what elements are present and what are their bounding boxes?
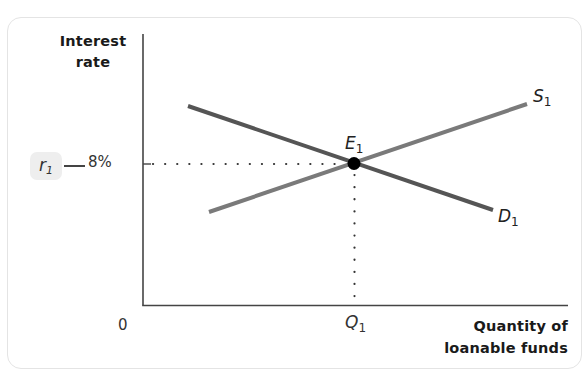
q1-symbol: Q	[345, 312, 358, 332]
origin-label: 0	[118, 316, 128, 334]
q1-label: Q1	[345, 312, 366, 332]
supply-curve-s1	[209, 104, 527, 212]
x-axis-title-line1: Quantity of	[444, 315, 568, 337]
s1-subscript: 1	[544, 95, 552, 109]
r1-symbol: r	[39, 155, 46, 175]
r1-label-box: r1	[30, 152, 62, 180]
r1-subscript: 1	[46, 164, 53, 177]
y-axis-title-line1: Interest	[40, 31, 146, 52]
d1-subscript: 1	[511, 215, 519, 229]
equilibrium-point-e1	[348, 157, 361, 170]
x-axis-title-line2: loanable funds	[444, 337, 568, 359]
y-axis-title-line2: rate	[40, 52, 146, 73]
d1-symbol: D	[498, 206, 511, 226]
d1-label: D1	[498, 206, 519, 226]
y-axis-title: Interest rate	[40, 31, 146, 73]
demand-curve-d1	[188, 106, 493, 210]
r1-connector-line	[64, 165, 85, 167]
x-axis-title: Quantity of loanable funds	[444, 315, 568, 359]
s1-symbol: S	[533, 86, 544, 106]
e1-symbol: E	[345, 133, 356, 153]
rate-value-label: 8%	[88, 153, 112, 171]
e1-label: E1	[345, 133, 363, 153]
s1-label: S1	[533, 86, 551, 106]
e1-subscript: 1	[356, 142, 364, 156]
q1-subscript: 1	[358, 321, 366, 335]
